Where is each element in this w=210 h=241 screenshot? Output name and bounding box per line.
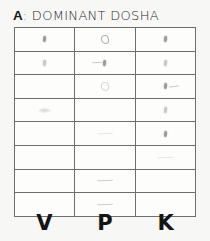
column-label-row: V P K [14, 209, 196, 239]
tally-cell-p-3[interactable] [75, 75, 135, 99]
table-row [15, 98, 196, 122]
tally-cell-v-6[interactable] [15, 145, 75, 169]
column-label-v: V [14, 209, 75, 239]
tally-mark-dot [136, 122, 195, 145]
tally-mark-none [75, 99, 134, 122]
tally-mark-smudge [15, 99, 74, 122]
column-label-p: P [75, 209, 136, 239]
column-label-k: K [135, 209, 196, 239]
table-row [15, 51, 196, 75]
tally-cell-v-3[interactable] [15, 75, 75, 99]
tally-cell-p-7[interactable] [75, 169, 135, 193]
tally-mark-dash-faint [75, 122, 134, 145]
tally-cell-k-6[interactable] [135, 145, 195, 169]
page-title-text: : DOMINANT DOSHA [23, 8, 159, 23]
tally-mark-dot [15, 28, 74, 51]
table-body [15, 28, 196, 217]
table-row [15, 122, 196, 146]
tally-cell-k-1[interactable] [135, 28, 195, 52]
table-row [15, 169, 196, 193]
tally-cell-k-5[interactable] [135, 122, 195, 146]
tally-mark-none [15, 75, 74, 98]
tally-mark-none [136, 170, 195, 193]
tally-mark-none [15, 122, 74, 145]
tally-cell-v-7[interactable] [15, 169, 75, 193]
tally-mark-dot-soft [136, 52, 195, 75]
tally-cell-k-4[interactable] [135, 98, 195, 122]
tally-cell-v-5[interactable] [15, 122, 75, 146]
tally-mark-loop-soft [75, 75, 134, 98]
tally-mark-dot-soft [15, 52, 74, 75]
tally-cell-p-4[interactable] [75, 98, 135, 122]
tally-cell-k-7[interactable] [135, 169, 195, 193]
tally-mark-none [15, 146, 74, 169]
table-row [15, 28, 196, 52]
table-row [15, 145, 196, 169]
tally-cell-p-6[interactable] [75, 145, 135, 169]
tally-mark-dot-soft [136, 99, 195, 122]
dosha-tally-table [14, 27, 196, 217]
tally-cell-v-4[interactable] [15, 98, 75, 122]
tally-cell-v-1[interactable] [15, 28, 75, 52]
dominant-dosha-worksheet: A: DOMINANT DOSHA V P K [0, 0, 210, 241]
tally-mark-loop [75, 28, 134, 51]
tally-mark-dash-faint [136, 146, 195, 169]
tally-cell-p-5[interactable] [75, 122, 135, 146]
tally-mark-dash [75, 170, 134, 193]
table-row [15, 75, 196, 99]
tally-cell-p-2[interactable] [75, 51, 135, 75]
tally-mark-dot [136, 28, 195, 51]
tally-mark-none [75, 146, 134, 169]
tally-mark-dot-tail-left [75, 52, 134, 75]
tally-mark-none [15, 170, 74, 193]
tally-cell-k-2[interactable] [135, 51, 195, 75]
tally-mark-dot-tail-right [136, 75, 195, 98]
page-title: A: DOMINANT DOSHA [13, 8, 159, 24]
tally-cell-p-1[interactable] [75, 28, 135, 52]
tally-cell-k-3[interactable] [135, 75, 195, 99]
tally-cell-v-2[interactable] [15, 51, 75, 75]
page-title-letter: A [13, 8, 23, 23]
